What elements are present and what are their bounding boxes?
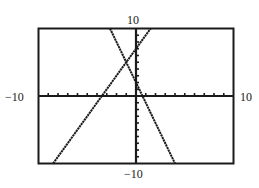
graph-window xyxy=(0,0,259,188)
